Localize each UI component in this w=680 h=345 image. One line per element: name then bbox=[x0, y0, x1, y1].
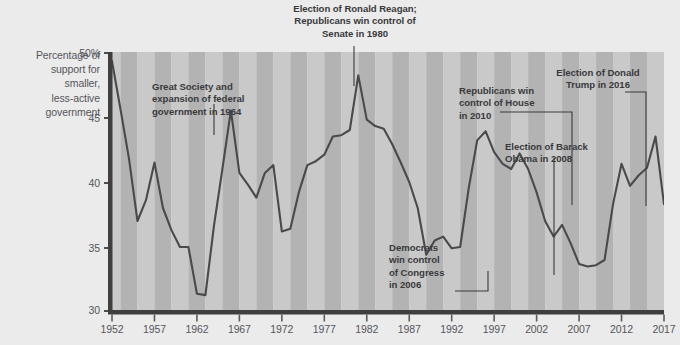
annotation-obama-2008-line-2: Obama in 2008 bbox=[505, 153, 609, 165]
annotation-trump-2016-line-2: Trump in 2016 bbox=[546, 79, 650, 91]
x-tick-label-1967: 1967 bbox=[219, 323, 259, 335]
x-tick-label-2002: 2002 bbox=[517, 323, 557, 335]
x-tick-mark bbox=[451, 315, 453, 322]
x-tick-mark bbox=[154, 315, 156, 322]
x-tick-mark bbox=[663, 315, 665, 322]
x-tick-label-1977: 1977 bbox=[304, 323, 344, 335]
annotation-obama-2008-line-1: Election of Barack bbox=[505, 141, 609, 153]
x-tick-label-1992: 1992 bbox=[432, 323, 472, 335]
x-tick-label-1957: 1957 bbox=[134, 323, 174, 335]
annotation-democrats-2006: Democrats win control of Congress in 200… bbox=[389, 242, 459, 292]
x-tick-mark bbox=[408, 315, 410, 322]
annotation-republicans-2010: Republicans win control of House in 2010 bbox=[459, 85, 551, 122]
leader-line-trump-2016 bbox=[625, 92, 646, 206]
x-tick-label-1952: 1952 bbox=[92, 323, 132, 335]
x-tick-mark bbox=[281, 315, 283, 322]
x-tick-label-1987: 1987 bbox=[389, 323, 429, 335]
x-tick-label-2017: 2017 bbox=[644, 323, 680, 335]
x-tick-label-1982: 1982 bbox=[347, 323, 387, 335]
annotation-republicans-2010-line-3: in 2010 bbox=[459, 110, 551, 122]
leader-line-democrats-2006 bbox=[455, 271, 488, 291]
annotation-great-society-line-2: expansion of federal bbox=[152, 93, 278, 105]
x-tick-mark bbox=[196, 315, 198, 322]
x-tick-mark bbox=[366, 315, 368, 322]
x-tick-label-2012: 2012 bbox=[602, 323, 642, 335]
annotation-reagan-1980-line-1: Election of Ronald Reagan; bbox=[258, 3, 452, 15]
annotation-obama-2008: Election of Barack Obama in 2008 bbox=[505, 141, 609, 166]
x-tick-marks bbox=[111, 315, 665, 322]
annotation-reagan-1980-line-2: Republicans win control of bbox=[258, 15, 452, 27]
x-tick-mark bbox=[239, 315, 241, 322]
x-tick-mark bbox=[578, 315, 580, 322]
x-tick-label-2007: 2007 bbox=[559, 323, 599, 335]
annotation-republicans-2010-line-2: control of House bbox=[459, 97, 551, 109]
annotation-great-society-line-1: Great Society and bbox=[152, 81, 278, 93]
x-tick-label-1962: 1962 bbox=[177, 323, 217, 335]
annotation-reagan-1980: Election of Ronald Reagan; Republicans w… bbox=[258, 3, 452, 40]
x-tick-label-1997: 1997 bbox=[474, 323, 514, 335]
x-tick-mark bbox=[111, 315, 113, 322]
annotation-trump-2016: Election of Donald Trump in 2016 bbox=[546, 67, 650, 92]
annotation-republicans-2010-line-1: Republicans win bbox=[459, 85, 551, 97]
annotation-great-society: Great Society and expansion of federal g… bbox=[152, 81, 278, 118]
annotation-democrats-2006-line-2: win control bbox=[389, 254, 459, 266]
annotation-democrats-2006-line-3: of Congress bbox=[389, 267, 459, 279]
annotation-reagan-1980-line-3: Senate in 1980 bbox=[258, 28, 452, 40]
annotation-democrats-2006-line-4: in 2006 bbox=[389, 279, 459, 291]
x-tick-mark bbox=[536, 315, 538, 322]
annotation-trump-2016-line-1: Election of Donald bbox=[546, 67, 650, 79]
x-tick-label-1972: 1972 bbox=[262, 323, 302, 335]
x-tick-mark bbox=[621, 315, 623, 322]
annotation-democrats-2006-line-1: Democrats bbox=[389, 242, 459, 254]
x-axis-line bbox=[108, 310, 664, 315]
x-tick-mark bbox=[324, 315, 326, 322]
annotation-great-society-line-3: government in 1964 bbox=[152, 106, 278, 118]
y-axis-line bbox=[108, 52, 113, 312]
x-tick-mark bbox=[493, 315, 495, 322]
